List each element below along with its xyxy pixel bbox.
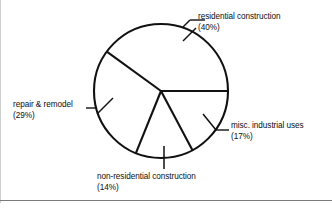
callout-leader-elbow-residential [183, 20, 190, 27]
pie-label-non-residential-percent: (14%) [97, 183, 196, 194]
callout-tick-repair-remodel [97, 98, 113, 114]
pie-divider-144deg [107, 52, 161, 91]
pie-label-repair-remodel-text: repair & remodel [13, 100, 73, 109]
pie-label-residential-percent: (40%) [198, 23, 281, 34]
pie-label-non-residential-text: non-residential construction [97, 172, 196, 181]
pie-label-non-residential-construction: non-residential construction (14%) [97, 172, 196, 193]
pie-label-misc-industrial-uses: misc. industrial uses (17%) [231, 121, 304, 142]
pie-label-misc-industrial-text: misc. industrial uses [231, 121, 304, 130]
pie-label-residential-text: residential construction [198, 12, 281, 21]
pie-label-residential-construction: residential construction (40%) [198, 12, 281, 33]
pie-chart-figure: residential construction (40%) misc. ind… [0, 0, 332, 209]
pie-divider-298deg [161, 91, 193, 150]
pie-label-misc-industrial-percent: (17%) [231, 132, 304, 143]
pie-divider-248deg [136, 91, 161, 153]
pie-label-repair-remodel-percent: (29%) [13, 111, 73, 122]
pie-label-repair-remodel: repair & remodel (29%) [13, 100, 73, 121]
callout-tick-misc-industrial [203, 114, 216, 130]
